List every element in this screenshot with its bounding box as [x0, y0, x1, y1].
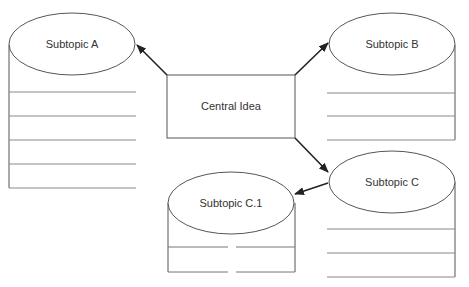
subtopic-a-label: Subtopic A [46, 38, 99, 50]
subtopic-b-node [327, 13, 455, 140]
arrow-c-to-c1 [295, 183, 328, 194]
arrow-central-to-c [295, 138, 328, 172]
subtopic-c1-node [168, 172, 295, 272]
arrow-central-to-b [295, 43, 328, 75]
subtopic-c-node [327, 151, 455, 277]
subtopic-c-label: Subtopic C [365, 176, 419, 188]
subtopic-b-label: Subtopic B [365, 38, 418, 50]
subtopic-c1-label: Subtopic C.1 [200, 197, 263, 209]
arrow-central-to-a [137, 45, 167, 75]
central-idea-label: Central Idea [201, 100, 261, 112]
